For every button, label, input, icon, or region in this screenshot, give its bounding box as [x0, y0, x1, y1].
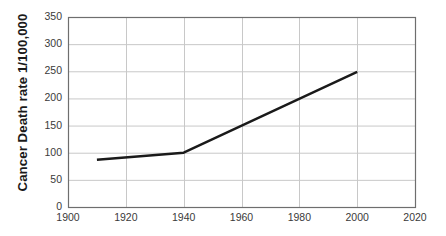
x-tick-label: 1940: [161, 211, 207, 223]
x-tick-label: 2020: [392, 211, 438, 223]
y-tick-label: 50: [28, 173, 62, 185]
y-tick-label: 300: [28, 37, 62, 49]
data-series-line: [97, 72, 357, 160]
chart-figure: Cancer Death rate 1/100,000 050100150200…: [0, 0, 446, 236]
x-tick-label: 1960: [219, 211, 265, 223]
y-tick-label: 100: [28, 146, 62, 158]
x-tick-label: 1980: [276, 211, 322, 223]
y-tick-label: 200: [28, 91, 62, 103]
x-tick-label: 1920: [103, 211, 149, 223]
x-tick-label: 1900: [45, 211, 91, 223]
x-tick-label: 2000: [334, 211, 380, 223]
gridlines: [68, 17, 415, 207]
plot-canvas: [0, 0, 446, 236]
y-tick-label: 350: [28, 10, 62, 22]
y-tick-label: 250: [28, 64, 62, 76]
series-polyline: [97, 72, 357, 160]
y-tick-label: 150: [28, 119, 62, 131]
